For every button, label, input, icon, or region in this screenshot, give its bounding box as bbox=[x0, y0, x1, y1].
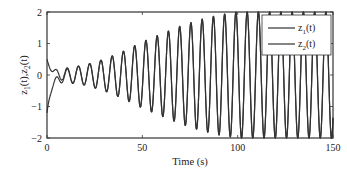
ytick-label-1: 1 bbox=[37, 38, 42, 49]
xtick-label-150: 150 bbox=[326, 142, 341, 153]
ytick-label-neg2: −2 bbox=[31, 133, 42, 144]
legend-box bbox=[262, 15, 331, 55]
ytick-label-0: 0 bbox=[37, 70, 42, 81]
xtick-label-50: 50 bbox=[137, 142, 147, 153]
xtick-label-0: 0 bbox=[45, 142, 50, 153]
ytick-label-2: 2 bbox=[37, 7, 42, 18]
legend: z1(t) z2(t) bbox=[262, 15, 331, 55]
xtick-label-100: 100 bbox=[230, 142, 245, 153]
ytick-label-neg1: −1 bbox=[31, 101, 42, 112]
line-chart: 2 1 0 −1 −2 0 50 100 150 Time (s) z1(t),… bbox=[0, 0, 347, 173]
x-axis-title: Time (s) bbox=[172, 156, 208, 168]
